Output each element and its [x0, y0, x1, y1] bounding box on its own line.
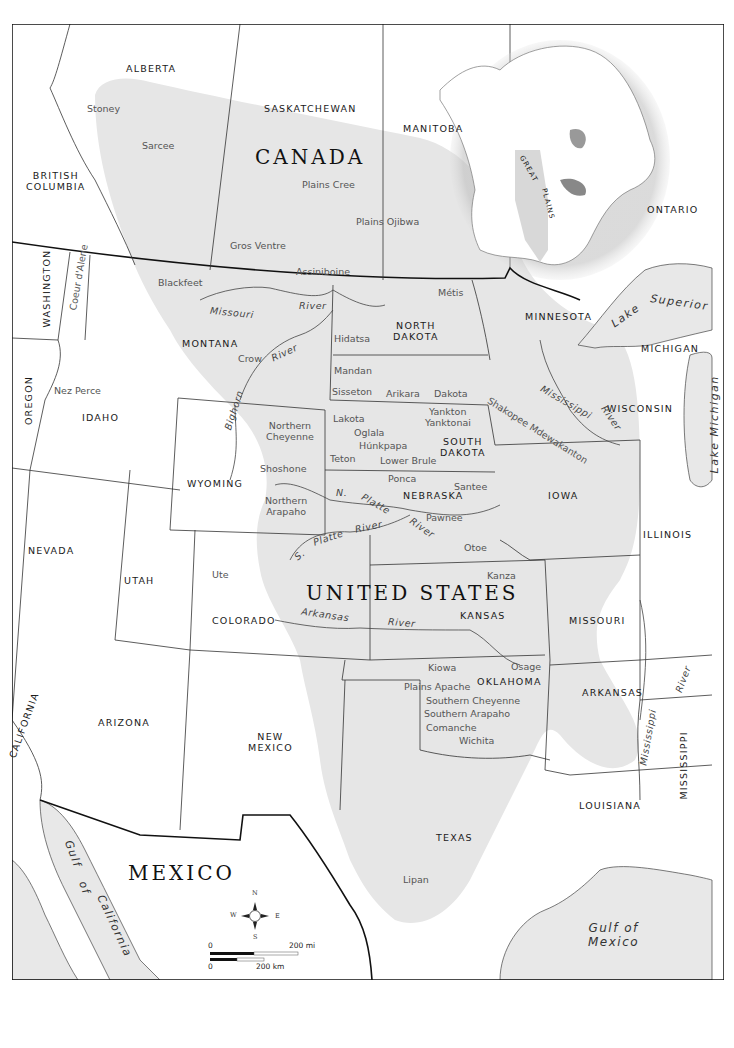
state-label-wisconsin: WISCONSIN	[607, 404, 673, 415]
tribe-label-sisseton: Sisseton	[332, 387, 372, 398]
state-label-wyoming: WYOMING	[187, 479, 243, 490]
state-label-iowa: IOWA	[548, 491, 578, 502]
state-label-oklahoma: OKLAHOMA	[477, 677, 542, 688]
tribe-label-southern-arapaho: Southern Arapaho	[424, 709, 510, 720]
tribe-label-gros-ventre: Gros Ventre	[230, 241, 286, 252]
tribe-label-teton: Teton	[330, 454, 356, 465]
tribe-label-sarcee: Sarcee	[142, 141, 174, 152]
state-label-minnesota: MINNESOTA	[525, 312, 592, 323]
river-label-arkansas-river: River	[388, 617, 416, 630]
state-label-line: DAKOTA	[440, 448, 486, 459]
state-label-kansas: KANSAS	[460, 611, 506, 622]
province-label-ontario: ONTARIO	[647, 205, 698, 216]
tribe-label-dakota: Dakota	[434, 389, 468, 400]
province-label-saskatchewan: SASKATCHEWAN	[264, 104, 356, 115]
tribe-label-crow: Crow	[238, 354, 262, 365]
tribe-label-northern-arapaho: Northern Arapaho	[265, 496, 307, 518]
tribe-label-yanktonai: Yanktonai	[425, 418, 471, 429]
tribe-label-nez-perce: Nez Perce	[54, 386, 101, 397]
province-label-line: COLUMBIA	[26, 182, 86, 193]
water-label-line: Mexico	[588, 936, 639, 950]
tribe-label-plains-cree: Plains Cree	[302, 180, 355, 191]
state-label-michigan: MICHIGAN	[641, 344, 699, 355]
river-label-n-platte-n: N.	[336, 488, 347, 499]
province-label-manitoba: MANITOBA	[403, 124, 464, 135]
tribe-label-line: Arapaho	[265, 507, 307, 518]
state-label-line: MEXICO	[248, 743, 293, 754]
country-label-united-states: UNITED STATES	[306, 582, 519, 605]
state-label-texas: TEXAS	[436, 833, 473, 844]
scale-km-label: 200 km	[256, 963, 284, 972]
state-label-arizona: ARIZONA	[98, 718, 150, 729]
country-label-canada: CANADA	[255, 146, 365, 169]
scale-mi-label: 200 mi	[289, 942, 315, 951]
tribe-label-hunkpapa: Húnkpapa	[359, 441, 407, 452]
water-label-line: Gulf of	[588, 922, 639, 936]
tribe-label-plains-ojibwa: Plains Ojibwa	[356, 217, 419, 228]
state-label-oregon: OREGON	[24, 376, 35, 425]
tribe-label-ute: Ute	[212, 570, 229, 581]
tribe-label-line: Cheyenne	[266, 432, 314, 443]
state-label-missouri: MISSOURI	[569, 616, 626, 627]
tribe-label-southern-cheyenne: Southern Cheyenne	[426, 696, 520, 707]
tribe-label-santee: Santee	[454, 482, 487, 493]
tribe-label-mandan: Mandan	[334, 366, 372, 377]
water-label-lake-michigan: Lake Michigan	[709, 375, 722, 473]
state-label-washington: WASHINGTON	[42, 253, 53, 327]
state-label-new-mexico: NEW MEXICO	[248, 732, 293, 754]
tribe-label-lakota: Lakota	[333, 414, 365, 425]
tribe-label-hidatsa: Hidatsa	[334, 334, 370, 345]
state-label-louisiana: LOUISIANA	[579, 801, 641, 812]
tribe-label-lipan: Lipan	[403, 875, 429, 886]
state-label-illinois: ILLINOIS	[643, 530, 692, 541]
state-label-south-dakota: SOUTH DAKOTA	[440, 437, 486, 459]
state-label-utah: UTAH	[124, 576, 154, 587]
tribe-label-arikara: Arikara	[386, 389, 420, 400]
state-label-line: DAKOTA	[393, 332, 439, 343]
tribe-label-ponca: Ponca	[388, 474, 416, 485]
tribe-label-osage: Osage	[511, 662, 541, 673]
state-label-mississippi: MISSISSIPPI	[679, 731, 690, 799]
province-label-alberta: ALBERTA	[126, 64, 176, 75]
country-label-mexico: MEXICO	[128, 862, 235, 885]
scale-km-zero: 0	[208, 963, 213, 972]
compass-n: N	[252, 890, 258, 897]
state-label-north-dakota: NORTH DAKOTA	[393, 321, 439, 343]
tribe-label-oglala: Oglala	[354, 428, 384, 439]
scale-mi-zero: 0	[208, 942, 213, 951]
tribe-label-lower-brule: Lower Brule	[380, 456, 436, 467]
tribe-label-kiowa: Kiowa	[428, 663, 456, 674]
tribe-label-blackfeet: Blackfeet	[158, 278, 202, 289]
compass-s: S	[253, 934, 257, 941]
tribe-label-assiniboine: Assiniboine	[296, 267, 350, 278]
compass-w: W	[230, 912, 237, 919]
compass-e: E	[275, 913, 280, 920]
water-label-gulf-of-mexico: Gulf of Mexico	[588, 922, 639, 950]
tribe-label-shoshone: Shoshone	[260, 464, 307, 475]
tribe-label-kanza: Kanza	[487, 571, 516, 582]
state-label-colorado: COLORADO	[212, 616, 276, 627]
tribe-label-pawnee: Pawnee	[426, 513, 463, 524]
tribe-label-stoney: Stoney	[87, 104, 120, 115]
tribe-label-comanche: Comanche	[426, 723, 477, 734]
tribe-label-northern-cheyenne: Northern Cheyenne	[266, 421, 314, 443]
state-label-nevada: NEVADA	[28, 546, 74, 557]
tribe-label-otoe: Otoe	[464, 543, 487, 554]
state-label-montana: MONTANA	[182, 339, 238, 350]
river-label-missouri-river: River	[299, 301, 327, 312]
tribe-label-metis: Métis	[438, 288, 463, 299]
tribe-label-wichita: Wichita	[459, 736, 494, 747]
state-label-idaho: IDAHO	[82, 413, 119, 424]
state-label-arkansas: ARKANSAS	[582, 688, 643, 699]
province-label-british-columbia: BRITISH COLUMBIA	[26, 171, 86, 193]
tribe-label-plains-apache: Plains Apache	[404, 682, 470, 693]
